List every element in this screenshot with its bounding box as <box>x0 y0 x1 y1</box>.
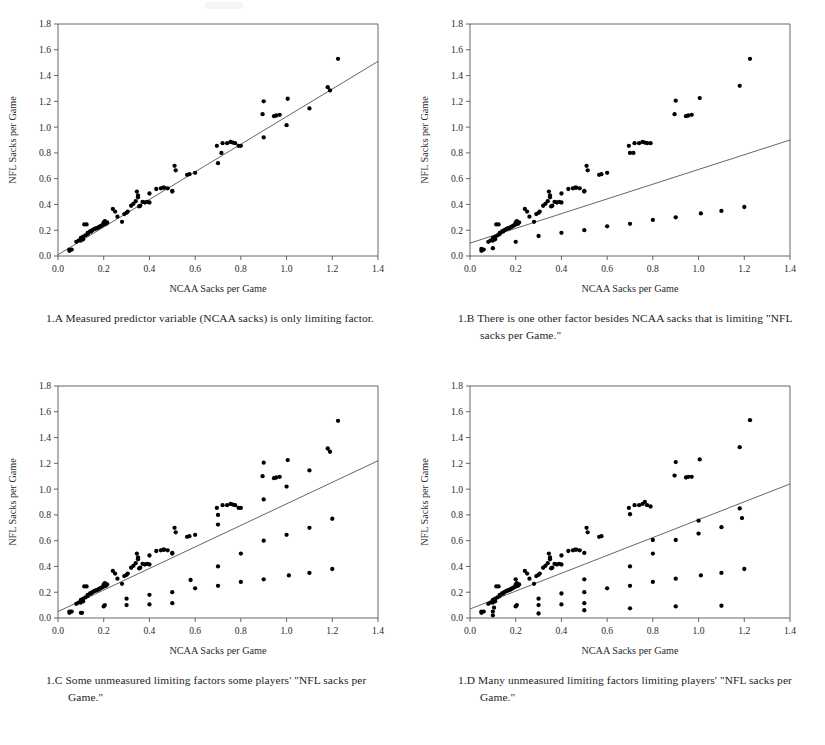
panel-c-chart: 0.00.20.40.60.81.01.21.41.61.80.00.20.40… <box>0 370 412 670</box>
x-tick-label: 1.0 <box>693 263 705 274</box>
y-tick-label: 0.8 <box>451 147 463 158</box>
data-point <box>307 571 311 575</box>
data-point <box>120 582 124 586</box>
data-point <box>193 533 197 537</box>
data-point <box>599 534 603 538</box>
data-point <box>278 475 282 479</box>
x-tick-label: 0.6 <box>601 625 613 636</box>
data-point <box>632 141 636 145</box>
data-point <box>84 584 88 588</box>
y-tick-label: 1.0 <box>451 484 463 495</box>
y-tick-label: 0.8 <box>39 509 51 520</box>
data-point <box>674 604 678 608</box>
data-point <box>239 144 243 148</box>
x-tick-label: 0.0 <box>52 625 64 636</box>
data-point <box>147 553 151 557</box>
data-point <box>219 151 223 155</box>
data-point <box>699 211 703 215</box>
panel-a-chart: 0.00.20.40.60.81.01.21.41.61.80.00.20.40… <box>0 8 412 308</box>
panel-b-chart: 0.00.20.40.60.81.01.21.41.61.80.00.20.40… <box>412 8 824 308</box>
figure-grid: 0.00.20.40.60.81.01.21.41.61.80.00.20.40… <box>0 0 825 745</box>
data-point <box>674 215 678 219</box>
y-tick-label: 1.6 <box>451 44 463 55</box>
data-point <box>491 609 495 613</box>
y-tick-label: 0.0 <box>451 250 463 261</box>
data-point <box>216 522 220 526</box>
data-point <box>105 220 109 224</box>
x-tick-label: 0.4 <box>143 625 155 636</box>
data-point <box>284 484 288 488</box>
data-point <box>126 571 130 575</box>
data-point <box>525 209 529 213</box>
data-point <box>738 445 742 449</box>
data-point <box>215 144 219 148</box>
data-point <box>628 606 632 610</box>
data-point <box>514 577 518 581</box>
data-point <box>582 551 586 555</box>
data-point <box>172 526 176 530</box>
data-point <box>328 88 332 92</box>
x-tick-label: 1.2 <box>326 263 338 274</box>
data-points <box>479 418 752 618</box>
panel-c-caption-label: 1.C <box>46 674 62 686</box>
panel-d-chart: 0.00.20.40.60.81.01.21.41.61.80.00.20.40… <box>412 370 824 670</box>
data-point <box>582 608 586 612</box>
data-point <box>515 603 519 607</box>
data-point <box>696 519 700 523</box>
x-tick-label: 1.4 <box>372 625 384 636</box>
data-point <box>147 200 151 204</box>
data-point <box>482 247 486 251</box>
data-point <box>138 566 142 570</box>
x-tick-label: 1.4 <box>784 625 796 636</box>
data-point <box>546 199 550 203</box>
data-point <box>262 497 266 501</box>
data-point <box>482 609 486 613</box>
data-point <box>547 189 551 193</box>
data-point <box>136 195 140 199</box>
data-point <box>651 551 655 555</box>
data-point <box>532 220 536 224</box>
data-point <box>648 141 652 145</box>
panel-d: 0.00.20.40.60.81.01.21.41.61.80.00.20.40… <box>412 370 824 730</box>
fit-line <box>470 484 790 609</box>
data-point <box>70 247 74 251</box>
x-tick-label: 0.8 <box>647 263 659 274</box>
data-point <box>527 215 531 219</box>
data-point <box>628 584 632 588</box>
data-point <box>187 534 191 538</box>
data-point <box>216 564 220 568</box>
data-point <box>120 220 124 224</box>
data-point <box>307 526 311 530</box>
data-point <box>134 199 138 203</box>
data-point <box>262 99 266 103</box>
data-point <box>559 231 563 235</box>
x-tick-label: 0.6 <box>189 625 201 636</box>
data-point <box>748 418 752 422</box>
data-point <box>559 553 563 557</box>
y-tick-label: 1.2 <box>451 96 463 107</box>
data-point <box>628 222 632 226</box>
y-tick-label: 0.6 <box>451 173 463 184</box>
data-point <box>336 419 340 423</box>
y-axis-title: NFL Sacks per Game <box>419 458 430 546</box>
data-point <box>287 573 291 577</box>
data-point <box>239 580 243 584</box>
data-point <box>651 218 655 222</box>
data-point <box>651 580 655 584</box>
data-point <box>113 209 117 213</box>
data-point <box>260 474 264 478</box>
y-tick-label: 1.0 <box>39 122 51 133</box>
panel-b: 0.00.20.40.60.81.01.21.41.61.80.00.20.40… <box>412 8 824 368</box>
data-point <box>674 460 678 464</box>
data-point <box>578 186 582 190</box>
data-point <box>550 204 554 208</box>
data-point <box>307 106 311 110</box>
x-tick-label: 1.2 <box>326 625 338 636</box>
x-tick-label: 0.0 <box>464 263 476 274</box>
panel-d-caption-label: 1.D <box>458 674 475 686</box>
data-point <box>674 538 678 542</box>
data-point <box>136 557 140 561</box>
fit-line <box>58 461 378 612</box>
data-point <box>216 513 220 517</box>
panel-b-caption-label: 1.B <box>458 312 474 324</box>
